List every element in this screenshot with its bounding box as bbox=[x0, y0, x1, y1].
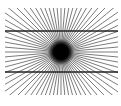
center-dark-spot bbox=[48, 39, 75, 66]
hering-illusion-figure bbox=[0, 0, 121, 106]
